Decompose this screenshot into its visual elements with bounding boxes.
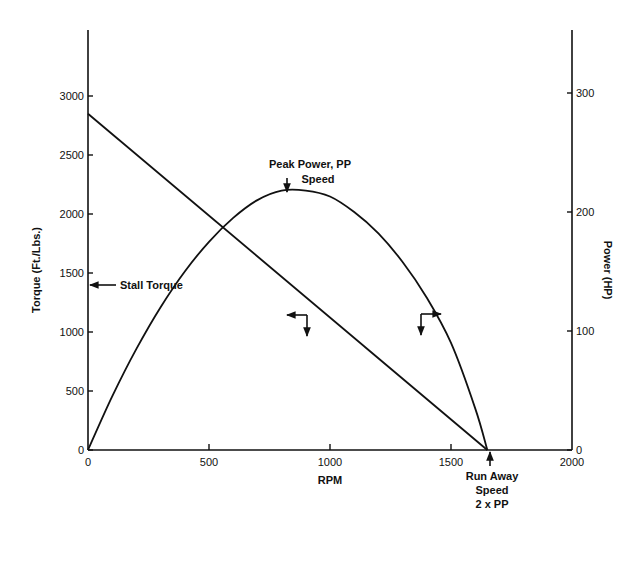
y-tick-label: 500	[66, 385, 84, 397]
y-tick-label: 2000	[60, 208, 84, 220]
y-tick-label: 2500	[60, 149, 84, 161]
y-tick-label: 1000	[60, 326, 84, 338]
power-curve	[88, 190, 487, 450]
y-tick-label: 0	[78, 444, 84, 456]
y-tick-label: 1500	[60, 267, 84, 279]
peak-power-label: Peak Power, PP	[269, 158, 351, 170]
stall-torque-label: Stall Torque	[120, 279, 183, 291]
torque-power-chart: 0500100015002000 05001000150020002500300…	[0, 0, 642, 578]
y2-tick-label: 200	[576, 206, 594, 218]
runaway-label-3: 2 x PP	[475, 498, 508, 510]
y2-tick-label: 0	[576, 444, 582, 456]
y-tick-label: 3000	[60, 90, 84, 102]
y2-tick-label: 300	[576, 87, 594, 99]
y2-axis-label: Power (HP)	[602, 241, 614, 300]
runaway-label-1: Run Away	[466, 470, 519, 482]
y-axis-label: Torque (Ft./Lbs.)	[30, 227, 42, 313]
y-ticks-right: 0100200300	[567, 87, 594, 456]
x-tick-label: 0	[85, 456, 91, 468]
x-tick-label: 1000	[318, 456, 342, 468]
x-tick-label: 2000	[560, 456, 584, 468]
x-axis-label: RPM	[318, 474, 342, 486]
peak-power-label-2: Speed	[301, 173, 334, 185]
x-tick-label: 500	[200, 456, 218, 468]
y2-tick-label: 100	[576, 325, 594, 337]
runaway-label-2: Speed	[475, 484, 508, 496]
x-ticks: 0500100015002000	[85, 444, 584, 468]
x-tick-label: 1500	[439, 456, 463, 468]
torque-axis-indicator-icon	[287, 315, 307, 336]
